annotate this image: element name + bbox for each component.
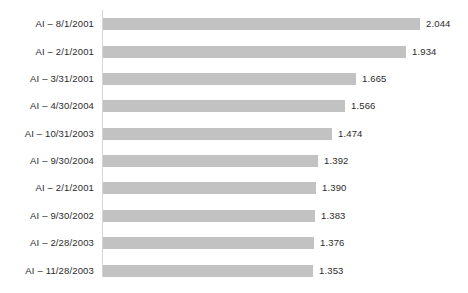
bar-row: AI – 11/28/20031.353: [0, 265, 468, 277]
bar-track: [103, 210, 315, 222]
bar-row: AI – 2/28/20031.376: [0, 237, 468, 249]
value-label: 1.392: [324, 155, 349, 167]
bar-track: [103, 265, 313, 277]
category-label: AI – 10/31/2003: [25, 128, 94, 140]
value-label: 1.383: [321, 210, 346, 222]
bar-row: AI – 8/1/20012.044: [0, 18, 468, 30]
category-label: AI – 9/30/2002: [30, 210, 94, 222]
bar-row: AI – 3/31/20011.665: [0, 73, 468, 85]
category-label: AI – 2/1/2001: [36, 46, 94, 58]
category-label: AI – 2/28/2003: [30, 237, 94, 249]
bar-rows-container: AI – 8/1/20012.044AI – 2/1/20011.934AI –…: [0, 0, 468, 293]
value-label: 1.353: [319, 265, 344, 277]
bar-fill[interactable]: [103, 265, 313, 277]
bar-row: AI – 4/30/20041.566: [0, 100, 468, 112]
bar-track: [103, 128, 332, 140]
value-label: 2.044: [426, 18, 451, 30]
category-label: AI – 3/31/2001: [30, 73, 94, 85]
category-label: AI – 11/28/2003: [25, 265, 94, 277]
bar-track: [103, 18, 420, 30]
bar-fill[interactable]: [103, 100, 345, 112]
bar-row: AI – 2/1/20011.934: [0, 46, 468, 58]
bar-fill[interactable]: [103, 46, 406, 58]
bar-fill[interactable]: [103, 155, 318, 167]
bar-track: [103, 237, 314, 249]
category-label: AI – 9/30/2004: [30, 155, 94, 167]
bar-track: [103, 155, 318, 167]
category-label: AI – 8/1/2001: [36, 18, 94, 30]
category-label: AI – 2/1/2001: [36, 182, 94, 194]
value-label: 1.566: [351, 100, 376, 112]
bar-chart: AI – 8/1/20012.044AI – 2/1/20011.934AI –…: [0, 0, 468, 293]
value-label: 1.934: [412, 46, 437, 58]
bar-fill[interactable]: [103, 210, 315, 222]
bar-fill[interactable]: [103, 73, 356, 85]
bar-track: [103, 100, 345, 112]
bar-track: [103, 73, 356, 85]
bar-fill[interactable]: [103, 182, 316, 194]
bar-track: [103, 46, 406, 58]
bar-row: AI – 9/30/20041.392: [0, 155, 468, 167]
bar-row: AI – 2/1/20011.390: [0, 182, 468, 194]
value-label: 1.474: [338, 128, 363, 140]
category-label: AI – 4/30/2004: [30, 100, 94, 112]
bar-track: [103, 182, 316, 194]
bar-fill[interactable]: [103, 128, 332, 140]
value-label: 1.390: [322, 182, 347, 194]
bar-fill[interactable]: [103, 237, 314, 249]
bar-row: AI – 10/31/20031.474: [0, 128, 468, 140]
value-label: 1.665: [362, 73, 387, 85]
value-label: 1.376: [320, 237, 345, 249]
bar-row: AI – 9/30/20021.383: [0, 210, 468, 222]
bar-fill[interactable]: [103, 18, 420, 30]
